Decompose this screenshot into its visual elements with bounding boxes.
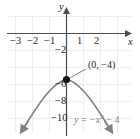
x-tick-label-1: 1 bbox=[77, 36, 82, 47]
y-tick-label-neg2: −2 bbox=[55, 45, 66, 56]
graph-figure: −3 −2 −1 1 2 −2 −6 −8 −10 y x (0, −4) y … bbox=[0, 0, 140, 139]
x-tick-label-neg2: −2 bbox=[27, 36, 38, 47]
curve-arrow-left bbox=[24, 121, 29, 128]
y-axis-label: y bbox=[59, 2, 64, 13]
equation-rest: − 4 bbox=[106, 114, 119, 125]
y-tick-label-neg6: −6 bbox=[55, 79, 66, 90]
equation-term: −x bbox=[89, 114, 100, 125]
curve-equation-label: y = −x2 − 4 bbox=[74, 114, 119, 125]
y-tick-label-neg10: −10 bbox=[51, 113, 67, 124]
x-tick-label-2: 2 bbox=[94, 36, 99, 47]
vertex-annotation-label: (0, −4) bbox=[88, 60, 115, 70]
x-tick-label-neg3: −3 bbox=[10, 36, 21, 47]
y-tick-label-neg8: −8 bbox=[55, 96, 66, 107]
x-axis-label: x bbox=[128, 37, 133, 48]
x-tick-label-neg1: −1 bbox=[44, 36, 55, 47]
